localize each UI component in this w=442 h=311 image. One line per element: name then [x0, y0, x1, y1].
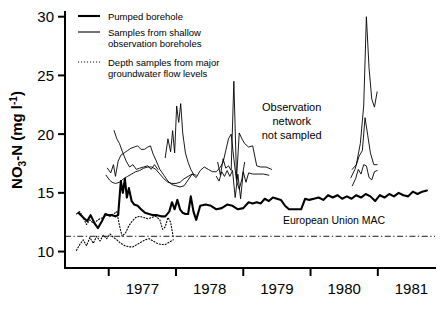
x-axis-tick-label: 1980: [327, 280, 360, 297]
series-line-shallow_i: [352, 165, 377, 186]
y-axis-tick-label: 30: [37, 8, 54, 25]
y-axis-label: NO3-N (mg l-1): [8, 91, 28, 189]
annotation-observation-network: not sampled: [262, 129, 322, 141]
x-axis-tick-label: 1979: [260, 280, 293, 297]
x-axis-tick-label: 1977: [126, 280, 159, 297]
annotation-observation-network: Observation: [262, 101, 321, 113]
series-line-shallow_g: [352, 17, 377, 170]
legend-depth-cont-label: groundwater flow levels: [108, 68, 208, 79]
annotation-observation-network: network: [272, 115, 311, 127]
annotation-european-union-mac: European Union MAC: [283, 214, 386, 226]
x-axis-tick-label: 1981: [395, 280, 428, 297]
y-axis-tick-label: 10: [37, 243, 54, 260]
y-axis-tick-label: 15: [37, 184, 54, 201]
series-line-shallow_f: [216, 171, 268, 199]
series-line-shallow_d: [165, 104, 193, 174]
y-axis-tick-label: 25: [37, 67, 54, 84]
chart-figure: 101520253019771978197919801981NO3-N (mg …: [0, 0, 442, 311]
legend-depth-label: Depth samples from major: [108, 57, 219, 68]
series-line-shallow_h: [351, 118, 377, 178]
y-axis-tick-label: 20: [37, 126, 54, 143]
x-axis-tick-label: 1978: [193, 280, 226, 297]
no3n-timeseries-chart: 101520253019771978197919801981NO3-N (mg …: [0, 0, 442, 311]
series-line-shallow_a: [114, 131, 158, 170]
legend-pumped-label: Pumped borehole: [108, 11, 183, 22]
legend-shallow-cont-label: observation boreholes: [108, 38, 202, 49]
legend-shallow-label: Samples from shallow: [108, 27, 201, 38]
